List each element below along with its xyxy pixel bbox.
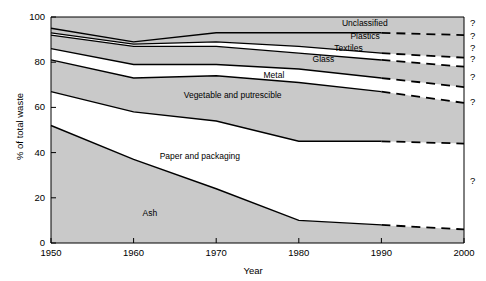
band-label-plastics: Plastics bbox=[350, 31, 379, 41]
x-tick-label-1980: 1980 bbox=[281, 247, 317, 258]
projection-question-mark-3: ? bbox=[470, 42, 475, 53]
band-label-metal: Metal bbox=[264, 70, 285, 80]
chart-container: 020406080100195019601970198019902000Year… bbox=[0, 0, 486, 281]
x-tick-label-2000: 2000 bbox=[446, 247, 482, 258]
y-tick-label-80: 80 bbox=[0, 56, 45, 67]
x-tick-label-1950: 1950 bbox=[33, 247, 69, 258]
projection-question-mark-7: ? bbox=[470, 175, 475, 186]
x-tick-label-1970: 1970 bbox=[198, 247, 234, 258]
band-label-paper-and-packaging: Paper and packaging bbox=[160, 151, 240, 161]
band-label-textiles: Textiles bbox=[334, 43, 362, 53]
y-tick-label-20: 20 bbox=[0, 192, 45, 203]
y-axis-label: % of total waste bbox=[14, 93, 25, 160]
projection-question-mark-1: ? bbox=[470, 17, 475, 28]
x-tick-label-1990: 1990 bbox=[363, 247, 399, 258]
band-label-ash: Ash bbox=[143, 208, 158, 218]
x-tick-label-1960: 1960 bbox=[116, 247, 152, 258]
band-label-vegetable-and-putrescible: Vegetable and putrescible bbox=[184, 90, 282, 100]
projection-question-mark-5: ? bbox=[470, 71, 475, 82]
projection-question-mark-4: ? bbox=[470, 53, 475, 64]
x-axis-label: Year bbox=[244, 265, 263, 276]
projection-question-mark-6: ? bbox=[470, 96, 475, 107]
band-label-glass: Glass bbox=[313, 54, 335, 64]
band-label-unclassified: Unclassified bbox=[342, 18, 388, 28]
stacked-area-chart bbox=[0, 0, 486, 281]
y-tick-label-100: 100 bbox=[0, 11, 45, 22]
projection-question-mark-2: ? bbox=[470, 30, 475, 41]
